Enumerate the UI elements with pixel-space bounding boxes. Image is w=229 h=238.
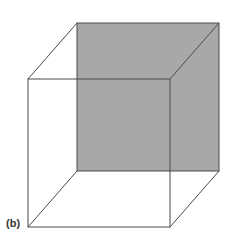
edge-bottom-right	[170, 171, 219, 227]
necker-cube-diagram	[0, 0, 229, 238]
edge-bottom-left	[28, 171, 77, 227]
back-face-shaded	[77, 23, 219, 171]
edge-top-left	[28, 23, 77, 79]
figure-label: (b)	[6, 217, 20, 229]
